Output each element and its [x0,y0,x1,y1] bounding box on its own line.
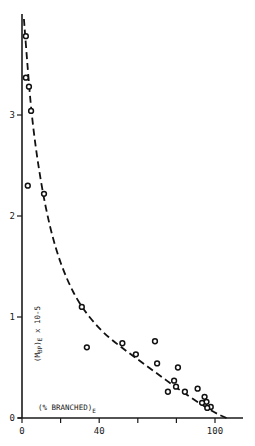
scatter-chart: 040100 0123 (% BRANCHED)E (MBP)E x 10-5 [0,0,255,446]
data-point-marker [182,389,187,394]
x-axis-label: (% BRANCHED)E [38,403,96,414]
y-tick-label: 0 [10,413,15,423]
y-axis-label: (MBP)E x 10-5 [33,306,43,362]
data-point-marker [42,191,47,196]
data-point-marker [84,345,89,350]
y-tick-label: 3 [10,110,15,120]
data-point-marker [200,400,205,405]
data-point-marker [176,365,181,370]
data-point-marker [155,361,160,366]
data-point-marker [23,34,28,39]
data-point-marker [153,339,158,344]
data-point-marker [27,84,32,89]
data-points [23,34,213,410]
fitted-dashed-curve [24,19,227,418]
x-tick-label: 0 [19,426,24,436]
data-point-marker [133,352,138,357]
data-point-marker [79,305,84,310]
data-point-marker [166,389,171,394]
y-tick-label: 2 [10,211,15,221]
y-tick-label: 1 [10,312,15,322]
data-point-marker [120,341,125,346]
data-point-marker [29,109,34,114]
data-point-marker [205,406,210,411]
axes [18,14,243,418]
x-tick-label: 100 [207,426,223,436]
data-point-marker [195,386,200,391]
data-point-marker [174,384,179,389]
y-ticks: 0123 [10,110,22,423]
x-tick-label: 40 [94,426,105,436]
data-point-marker [172,378,177,383]
x-ticks: 040100 [19,418,223,436]
data-point-marker [23,75,28,80]
data-point-marker [202,394,207,399]
data-point-marker [25,183,30,188]
